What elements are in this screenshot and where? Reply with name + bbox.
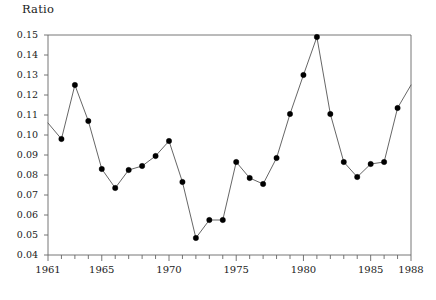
x-axis-tick-label: 1980 [283,264,323,275]
data-point-marker [355,174,360,179]
data-point-marker [260,181,265,186]
data-point-marker [86,118,91,123]
data-point-marker [274,155,279,160]
y-axis-tick-label: 0.15 [8,29,38,40]
y-axis-tick-label: 0.04 [8,249,38,260]
data-point-marker [381,159,386,164]
data-point-marker [193,235,198,240]
data-point-marker [328,111,333,116]
y-axis-tick-label: 0.05 [8,229,38,240]
y-axis-tick-label: 0.10 [8,129,38,140]
data-series-line [48,37,411,238]
x-axis-tick-label: 1988 [391,264,431,275]
data-point-marker [247,175,252,180]
data-point-marker [301,72,306,77]
y-axis-tick-label: 0.07 [8,189,38,200]
data-point-marker [368,161,373,166]
y-axis-tick-label: 0.09 [8,149,38,160]
plot-canvas [0,0,436,300]
data-point-marker [59,136,64,141]
chart-figure: Ratio 0.150.140.130.120.110.100.090.080.… [0,0,436,300]
data-point-marker [234,159,239,164]
data-point-marker [287,111,292,116]
y-axis-tick-label: 0.13 [8,69,38,80]
data-point-marker [72,82,77,87]
data-point-marker [180,179,185,184]
data-point-marker [314,34,319,39]
data-point-marker [153,153,158,158]
data-point-marker [207,217,212,222]
data-point-marker [113,185,118,190]
data-point-marker [341,159,346,164]
x-axis-tick-label: 1961 [28,264,68,275]
data-point-marker [166,138,171,143]
x-axis-tick-label: 1975 [216,264,256,275]
y-axis-tick-label: 0.14 [8,49,38,60]
y-axis-tick-label: 0.06 [8,209,38,220]
y-axis-tick-label: 0.11 [8,109,38,120]
data-point-marker [220,217,225,222]
y-axis-tick-label: 0.08 [8,169,38,180]
x-axis-tick-label: 1985 [351,264,391,275]
data-point-marker [99,166,104,171]
data-point-marker [126,167,131,172]
data-point-marker [395,105,400,110]
x-axis-tick-label: 1965 [82,264,122,275]
data-point-marker [139,163,144,168]
y-axis-tick-label: 0.12 [8,89,38,100]
x-axis-tick-label: 1970 [149,264,189,275]
